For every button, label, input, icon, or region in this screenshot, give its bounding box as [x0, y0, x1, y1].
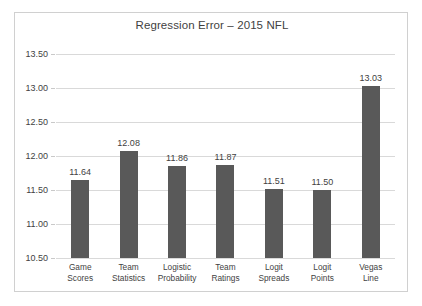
bar-value-label: 11.87: [215, 152, 237, 162]
bar[interactable]: [265, 189, 283, 258]
y-axis-tick-mark: [51, 224, 55, 225]
bar-value-label: 12.08: [117, 138, 140, 148]
x-axis-category-label: GameScores: [67, 262, 93, 284]
y-axis-tick-label: 10.50: [15, 253, 48, 263]
bar-value-label: 11.50: [311, 177, 333, 187]
y-axis-tick-label: 12.00: [15, 151, 48, 161]
bar-group: 11.86LogisticProbability: [153, 13, 201, 293]
bar-group: 13.03VegasLine: [347, 13, 395, 293]
bar[interactable]: [313, 190, 331, 258]
x-axis-category-label: TeamRatings: [211, 262, 239, 284]
bar-group: 11.51LogitSpreads: [250, 13, 298, 293]
y-axis-tick-label: 13.00: [15, 83, 48, 93]
bar[interactable]: [362, 86, 380, 258]
bar[interactable]: [71, 180, 89, 258]
bar-value-label: 11.64: [69, 167, 91, 177]
bar-group: 11.64GameScores: [56, 13, 104, 293]
bar[interactable]: [216, 165, 234, 258]
bar-value-label: 11.86: [166, 153, 188, 163]
bar[interactable]: [168, 166, 186, 258]
y-axis-tick-label: 11.00: [15, 219, 48, 229]
bar[interactable]: [120, 151, 138, 258]
bar-group: 12.08TeamStatistics: [104, 13, 152, 293]
y-axis-tick-mark: [51, 156, 55, 157]
y-axis-tick-mark: [51, 190, 55, 191]
y-axis-tick-label: 11.50: [15, 185, 48, 195]
x-axis-category-label: VegasLine: [359, 262, 382, 284]
x-axis-category-label: LogitSpreads: [258, 262, 289, 284]
y-axis-tick-label: 12.50: [15, 117, 48, 127]
x-axis-category-label: TeamStatistics: [112, 262, 145, 284]
chart-container: Regression Error – 2015 NFL 13.5013.0012…: [14, 12, 408, 292]
plot-area: 13.5013.0012.5012.0011.5011.0010.50 11.6…: [15, 13, 409, 293]
bars-group: 11.64GameScores12.08TeamStatistics11.86L…: [56, 13, 395, 293]
y-axis-tick-mark: [51, 54, 55, 55]
y-axis-tick-mark: [51, 258, 55, 259]
bar-group: 11.50LogitPoints: [298, 13, 346, 293]
y-axis-tick-label: 13.50: [15, 49, 48, 59]
bar-value-label: 11.51: [263, 176, 285, 186]
x-axis-category-label: LogisticProbability: [158, 262, 197, 284]
y-axis-tick-mark: [51, 122, 55, 123]
bar-group: 11.87TeamRatings: [201, 13, 249, 293]
bar-value-label: 13.03: [360, 73, 383, 83]
y-axis-tick-mark: [51, 88, 55, 89]
x-axis-category-label: LogitPoints: [311, 262, 334, 284]
